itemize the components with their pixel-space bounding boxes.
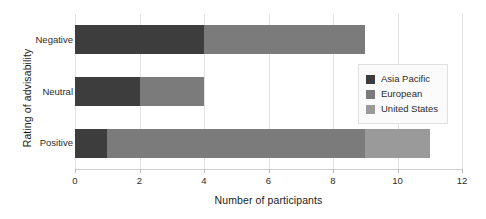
legend-item[interactable]: European — [366, 87, 438, 101]
x-axis-tick-label: 2 — [120, 175, 160, 186]
bar-segment — [75, 129, 107, 158]
y-axis-tick-labels: NegativeNeutralPositive — [3, 14, 73, 169]
legend-item-label: Asia Pacific — [381, 74, 430, 84]
x-axis-tick-label: 0 — [55, 175, 95, 186]
x-axis-tick-label: 10 — [378, 175, 418, 186]
x-axis-tick — [462, 169, 463, 173]
x-axis-title: Number of participants — [75, 194, 462, 206]
x-axis-tick-label: 6 — [249, 175, 289, 186]
x-axis-tick — [333, 169, 334, 173]
legend-item[interactable]: Asia Pacific — [366, 72, 438, 86]
x-axis-tick — [269, 169, 270, 173]
legend-item-label: European — [381, 89, 422, 99]
bar-row — [75, 129, 462, 158]
legend-swatch-icon — [366, 105, 375, 114]
x-axis-tick — [140, 169, 141, 173]
y-axis-tick-label: Neutral — [3, 86, 73, 97]
bar-segment — [140, 77, 205, 106]
bar-row — [75, 25, 462, 54]
x-axis-tick — [398, 169, 399, 173]
x-axis-tick — [75, 169, 76, 173]
legend-swatch-icon — [366, 75, 375, 84]
legend-item[interactable]: United States — [366, 102, 438, 116]
y-axis-tick-label: Negative — [3, 34, 73, 45]
legend-swatch-icon — [366, 90, 375, 99]
bar-chart: Rating of advisability Number of partici… — [0, 0, 486, 219]
bar-segment — [365, 129, 430, 158]
x-axis-tick — [204, 169, 205, 173]
bar-segment — [204, 25, 365, 54]
x-axis-tick-label: 4 — [184, 175, 224, 186]
y-axis-tick-label: Positive — [3, 137, 73, 148]
legend-item-label: United States — [381, 104, 438, 114]
bar-segment — [107, 129, 365, 158]
legend: Asia PacificEuropeanUnited States — [358, 64, 448, 124]
bar-segment — [75, 77, 140, 106]
x-axis-tick-label: 8 — [313, 175, 353, 186]
gridline — [462, 14, 463, 169]
x-axis-tick-label: 12 — [442, 175, 482, 186]
bar-segment — [75, 25, 204, 54]
